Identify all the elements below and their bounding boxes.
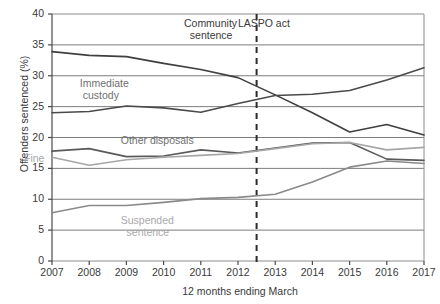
x-tick-label: 2012 bbox=[218, 266, 258, 278]
y-tick-label: 30 bbox=[18, 70, 44, 80]
x-tick-label: 2015 bbox=[330, 266, 370, 278]
y-tick-label: 25 bbox=[18, 101, 44, 111]
gridlines bbox=[52, 14, 424, 261]
axis-ticks bbox=[48, 14, 424, 265]
annotation-laspo-act: LASPO act bbox=[238, 17, 290, 29]
x-tick-label: 2010 bbox=[144, 266, 184, 278]
x-tick-label: 2017 bbox=[404, 266, 440, 278]
y-tick-label: 0 bbox=[18, 255, 44, 265]
y-tick-label: 40 bbox=[18, 8, 44, 18]
y-tick-label: 20 bbox=[18, 132, 44, 142]
annotation-fine: Fine bbox=[24, 152, 44, 164]
y-tick-label: 10 bbox=[18, 193, 44, 203]
annotation-suspended-sentence: Suspended sentence bbox=[121, 214, 174, 238]
x-tick-label: 2016 bbox=[367, 266, 407, 278]
annotation-other-disposals: Other disposals bbox=[121, 134, 194, 146]
x-tick-label: 2009 bbox=[106, 266, 146, 278]
x-tick-label: 2008 bbox=[69, 266, 109, 278]
x-tick-label: 2007 bbox=[32, 266, 72, 278]
y-tick-label: 35 bbox=[18, 39, 44, 49]
x-tick-label: 2013 bbox=[255, 266, 295, 278]
x-tick-label: 2014 bbox=[292, 266, 332, 278]
annotation-immediate-custody: Immediate custody bbox=[80, 77, 129, 101]
y-tick-label: 5 bbox=[18, 224, 44, 234]
x-tick-label: 2011 bbox=[181, 266, 221, 278]
x-axis-title: 12 months ending March bbox=[52, 285, 428, 297]
annotation-community-sentence: Community sentence bbox=[184, 17, 237, 41]
